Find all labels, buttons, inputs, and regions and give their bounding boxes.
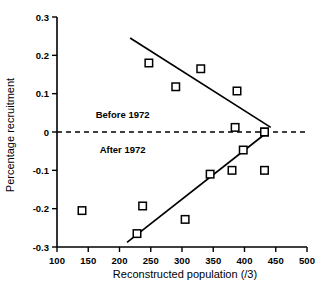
y-tick-label: 0 (44, 127, 49, 138)
data-point-marker (231, 124, 239, 131)
y-axis-title: Percentage recruitment (4, 78, 16, 192)
x-tick-label: 150 (80, 255, 96, 266)
y-tick-label: 0.1 (36, 88, 50, 99)
y-tick-label: -0.2 (33, 203, 49, 214)
scatter-plot: 0.30.20.10-0.1-0.2-0.3100150200250300350… (0, 0, 321, 289)
y-tick-label: -0.1 (33, 165, 50, 176)
axis-tick-labels: 0.30.20.10-0.1-0.2-0.3100150200250300350… (33, 12, 315, 267)
data-point-marker (228, 167, 236, 175)
x-tick-label: 350 (205, 255, 221, 266)
data-point-marker (261, 167, 269, 175)
data-point-marker (172, 83, 180, 91)
chart-annotation: After 1972 (100, 144, 146, 155)
x-tick-label: 200 (112, 255, 128, 266)
x-tick-label: 250 (143, 255, 159, 266)
data-point-marker (139, 202, 147, 210)
data-point-marker (133, 230, 141, 238)
x-axis-title: Reconstructed population (/3) (113, 268, 257, 280)
data-point-marker (181, 216, 189, 224)
data-point-marker (145, 59, 153, 67)
x-tick-label: 500 (299, 255, 315, 266)
y-tick-label: 0.2 (36, 50, 49, 61)
regression-line (130, 38, 271, 127)
x-tick-label: 450 (268, 255, 284, 266)
y-tick-label: 0.3 (36, 12, 49, 23)
chart-annotation: Before 1972 (96, 109, 150, 120)
data-point-marker (233, 87, 241, 95)
data-point-marker (197, 65, 205, 73)
x-tick-label: 400 (237, 255, 253, 266)
data-point-marker (240, 146, 248, 154)
chart-figure: 0.30.20.10-0.1-0.2-0.3100150200250300350… (0, 0, 321, 289)
y-tick-label: -0.3 (33, 242, 49, 253)
x-tick-label: 100 (49, 255, 65, 266)
data-point-marker (78, 207, 86, 215)
x-tick-label: 300 (174, 255, 190, 266)
data-point-marker (206, 170, 214, 178)
data-point-marker (261, 128, 269, 136)
